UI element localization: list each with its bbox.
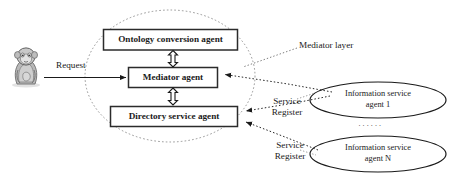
annotation-service-register-1: Service Register (259, 96, 315, 118)
service-register-2-line-1: Service (276, 140, 304, 150)
service-register-2-line-2: Register (275, 151, 306, 161)
diagram-canvas: Ontology conversion agent Mediator agent… (0, 0, 458, 182)
box-directory-service-agent (111, 107, 238, 127)
service-register-1-line-2: Register (272, 107, 303, 117)
double-arrow-ontology-mediator (169, 51, 178, 68)
annotation-request: Request (56, 60, 86, 71)
arrow-isa1-to-mediator (225, 75, 332, 93)
seated-person-icon (6, 44, 46, 88)
leader-mediator-layer (243, 48, 297, 67)
double-arrow-mediator-directory (169, 88, 178, 105)
ellipse-information-service-agent-1 (310, 82, 446, 118)
ellipse-information-service-agent-n (310, 136, 446, 172)
service-register-1-line-1: Service (273, 96, 301, 106)
vertical-ellipsis-mark: ······ (358, 120, 383, 130)
diagram-vector-layer (0, 0, 458, 182)
annotation-mediator-layer: Mediator layer (299, 40, 353, 51)
annotation-service-register-2: Service Register (262, 140, 318, 162)
box-mediator-agent (129, 68, 218, 88)
box-ontology-conversion-agent (104, 30, 238, 51)
